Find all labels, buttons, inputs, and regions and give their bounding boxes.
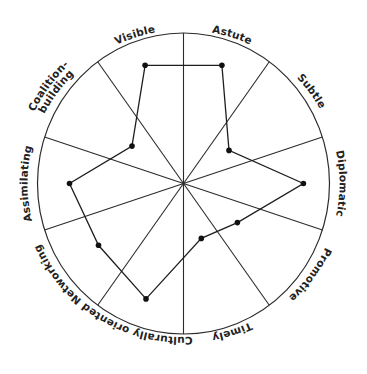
label-assimilating: Assimilating [17,144,34,223]
label-culturally-oriented: Culturally oriented [79,301,193,347]
radar-chart: Astute Subtle Diplomatic Promotive Timel… [0,0,367,374]
data-point-dot [219,63,225,69]
label-timely: Timely [211,320,254,344]
radar-chart-svg: Astute Subtle Diplomatic Promotive Timel… [0,0,367,374]
data-point-dot [226,148,232,154]
data-point-dot [142,63,148,69]
label-networking: Networking [31,243,83,308]
data-point-dot [67,181,73,187]
data-point-dot [143,296,149,302]
data-point-dot [96,243,102,249]
spokes [45,33,323,334]
label-visible: Visible [113,23,156,47]
label-astute: Astute [211,23,254,47]
data-point-dot [301,181,307,187]
label-diplomatic: Diplomatic [334,149,350,218]
data-point-dot [129,143,135,149]
data-point-dot [235,220,241,226]
data-point-dot [199,236,205,242]
label-promotive: Promotive [287,246,335,304]
label-subtle: Subtle [295,71,329,110]
